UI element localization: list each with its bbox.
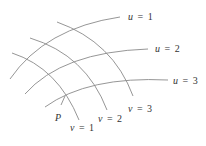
v-label-3: v = 3: [128, 103, 152, 114]
point-p-label: P: [54, 112, 61, 123]
u-label-1: u = 1: [128, 11, 153, 22]
v-label-1: v = 1: [70, 122, 94, 133]
v-curve-1: [12, 53, 79, 120]
u-label-3: u = 3: [173, 75, 198, 86]
u-label-2: u = 2: [155, 43, 180, 54]
u-curve-1: [10, 17, 120, 79]
curvilinear-coordinate-diagram: u = 1 u = 2 u = 3 v = 1 v = 2 v = 3 P: [0, 0, 206, 146]
v-label-2: v = 2: [98, 113, 122, 124]
